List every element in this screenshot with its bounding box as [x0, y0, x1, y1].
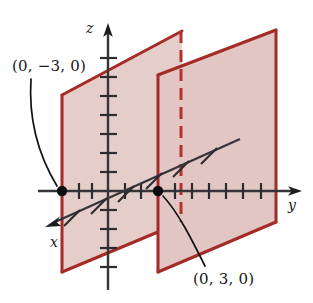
dot-neg3: [57, 186, 67, 196]
z-axis-label: z: [86, 21, 93, 35]
point-label-neg3: (0, −3, 0): [12, 59, 86, 74]
coordinate-figure: z y x (0, −3, 0) (0, 3, 0): [0, 0, 313, 303]
x-axis-label: x: [50, 235, 58, 249]
leader-line-neg3: [31, 79, 57, 186]
x-axis-arrow-icon: [45, 217, 61, 228]
dot-pos3: [153, 186, 163, 196]
point-label-pos3: (0, 3, 0): [193, 272, 254, 287]
y-axis-label: y: [288, 198, 296, 212]
diagram-canvas: [0, 0, 313, 303]
